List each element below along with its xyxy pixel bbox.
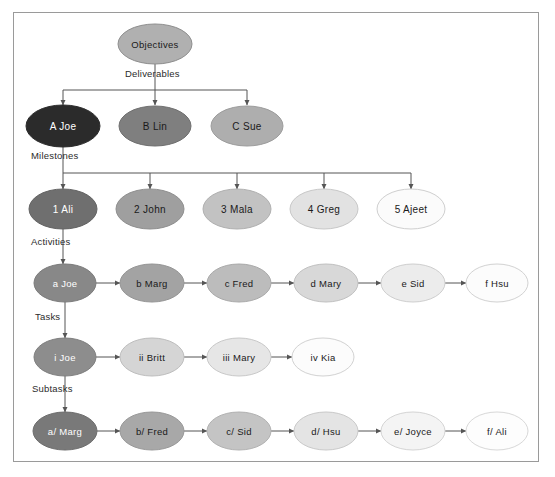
connector-label-milestones: Milestones bbox=[31, 150, 78, 161]
connector-label-subtasks: Subtasks bbox=[32, 383, 73, 394]
connector-label-activities: Activities bbox=[31, 236, 70, 247]
connector-label-deliverables: Deliverables bbox=[125, 68, 180, 79]
diagram-frame-border bbox=[13, 12, 539, 462]
diagram-canvas: ObjectivesA JoeB LinC Sue1 Ali2 John3 Ma… bbox=[0, 0, 555, 477]
connector-label-tasks: Tasks bbox=[35, 311, 60, 322]
